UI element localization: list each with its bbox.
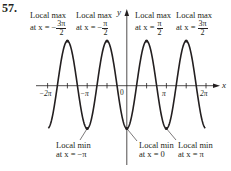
tick-label-zero: 0 bbox=[120, 88, 124, 97]
local-max-label-2: Local max at x = −π2 bbox=[76, 11, 112, 37]
fraction: π2 bbox=[157, 20, 163, 37]
label-text: at x = −π bbox=[56, 150, 91, 159]
tick-label-neg-2pi: −2π bbox=[39, 89, 52, 98]
local-min-label-3: Local min at x = π bbox=[178, 141, 213, 159]
denominator: 2 bbox=[201, 29, 205, 37]
label-prefix: at x = bbox=[135, 22, 157, 32]
label-text: at x = π bbox=[178, 150, 213, 159]
local-max-label-1: Local max at x = −3π2 bbox=[30, 11, 66, 37]
local-min-label-1: Local min at x = −π bbox=[56, 141, 91, 159]
local-min-label-2: Local min at x = 0 bbox=[139, 141, 174, 159]
tick-label-2pi: 2π bbox=[200, 89, 208, 98]
label-title: Local max bbox=[176, 11, 212, 20]
label-prefix: at x = − bbox=[76, 22, 102, 32]
fraction: 3π2 bbox=[198, 20, 208, 37]
fraction: π2 bbox=[102, 20, 108, 37]
denominator: 2 bbox=[103, 29, 107, 37]
y-axis-label: y bbox=[117, 7, 121, 17]
label-text: at x = 0 bbox=[139, 150, 174, 159]
denominator: 2 bbox=[59, 29, 63, 37]
label-title: Local max bbox=[135, 11, 171, 20]
tick-label-pi: π bbox=[162, 89, 166, 98]
denominator: 2 bbox=[158, 29, 162, 37]
label-prefix: at x = bbox=[176, 22, 198, 32]
local-max-label-3: Local max at x = π2 bbox=[135, 11, 171, 37]
x-axis-label: x bbox=[222, 80, 226, 90]
label-prefix: at x = − bbox=[30, 22, 56, 32]
y-axis-arrow-icon bbox=[125, 9, 130, 16]
x-axis-arrow-icon bbox=[213, 83, 220, 88]
tick-label-neg-pi: −π bbox=[80, 89, 89, 98]
fraction: 3π2 bbox=[56, 20, 66, 37]
local-max-label-4: Local max at x = 3π2 bbox=[176, 11, 212, 37]
